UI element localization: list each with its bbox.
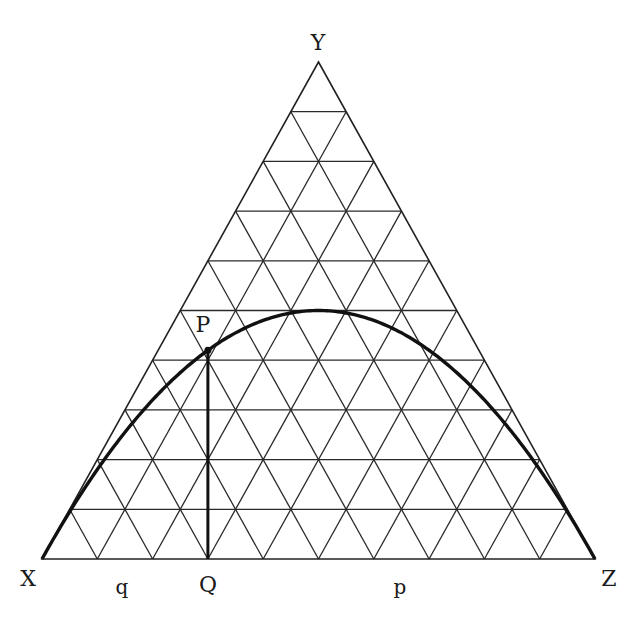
grid-line-parallel-zy xyxy=(125,410,208,559)
foot-label-q: Q xyxy=(199,572,217,597)
ternary-diagram: Y X Z P Q q p xyxy=(0,0,639,621)
grid-line-parallel-xy xyxy=(540,509,568,559)
grid-line-parallel-zy xyxy=(236,211,430,559)
grid-line-parallel-zy xyxy=(291,112,540,559)
grid-line-parallel-xy xyxy=(97,112,346,559)
grid-line-parallel-zy xyxy=(70,509,98,559)
grid-line-parallel-xy xyxy=(429,410,512,559)
grid-line-parallel-xy xyxy=(319,311,457,560)
vertex-label-x: X xyxy=(20,566,36,591)
point-p-marker xyxy=(204,347,211,354)
vertex-label-y: Y xyxy=(310,30,326,55)
segment-label-q: q xyxy=(116,575,129,599)
triangular-grid xyxy=(70,112,568,559)
segment-label-p: p xyxy=(394,575,407,599)
grid-line-parallel-xy xyxy=(208,211,402,559)
point-label-p: P xyxy=(196,312,211,337)
grid-line-parallel-zy xyxy=(180,311,318,560)
hardy-weinberg-curve xyxy=(42,311,595,560)
vertex-label-z: Z xyxy=(601,566,616,591)
